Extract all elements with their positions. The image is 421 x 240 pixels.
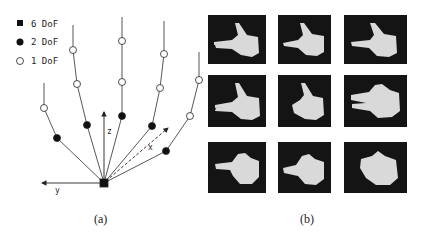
- joints: [41, 38, 203, 188]
- legend-label-6dof: 6 DoF: [31, 19, 58, 29]
- hand-pose-image: [208, 142, 266, 193]
- one-dof-joint-icon: [187, 113, 194, 120]
- legend-label-2dof: 2 DoF: [31, 37, 58, 47]
- one-dof-joint-icon: [157, 85, 164, 92]
- two-dof-joint-icon: [149, 123, 156, 130]
- one-dof-joint-icon: [161, 51, 168, 58]
- one-dof-joint-icon: [196, 77, 203, 84]
- hand-pose-image: [208, 75, 266, 127]
- legend-label-1dof: 1 DoF: [31, 56, 58, 66]
- hand-pose-image: [278, 142, 331, 193]
- six-dof-root-joint-icon: [100, 179, 108, 187]
- one-dof-joint-icon: [41, 105, 48, 112]
- hand-pose-image: [344, 75, 407, 127]
- hand-pose-image: [344, 142, 407, 193]
- hand-pose-image: [208, 15, 266, 64]
- hand-pose-image: [278, 15, 331, 64]
- hand-skeleton-diagram: 6 DoF 2 DoF 1 DoF z y x: [0, 0, 205, 240]
- one-dof-joint-icon: [74, 81, 81, 88]
- two-dof-joint-icon: [119, 113, 126, 120]
- one-dof-marker-icon: [17, 58, 24, 65]
- hand-pose-image: [344, 15, 407, 64]
- kinematic-hand-model-panel: 6 DoF 2 DoF 1 DoF z y x: [0, 0, 205, 240]
- caption-b: (b): [300, 212, 314, 227]
- six-dof-marker-icon: [17, 20, 23, 26]
- caption-a: (a): [94, 212, 107, 227]
- thumb-bone: [44, 83, 104, 183]
- hand-pose-image-grid: [208, 15, 414, 193]
- x-axis-label: x: [148, 143, 153, 152]
- two-dof-joint-icon: [84, 122, 91, 129]
- one-dof-joint-icon: [70, 47, 77, 54]
- y-axis-label: y: [55, 186, 60, 195]
- two-dof-joint-icon: [163, 148, 170, 155]
- hand-pose-image: [278, 75, 331, 127]
- little-bone: [104, 52, 199, 183]
- one-dof-joint-icon: [119, 79, 126, 86]
- ring-bone: [104, 21, 164, 183]
- two-dof-joint-icon: [54, 135, 61, 142]
- index-bone: [73, 25, 104, 183]
- z-axis-label: z: [107, 127, 112, 136]
- two-dof-marker-icon: [17, 39, 24, 46]
- legend: 6 DoF 2 DoF 1 DoF: [17, 19, 59, 66]
- one-dof-joint-icon: [119, 38, 126, 45]
